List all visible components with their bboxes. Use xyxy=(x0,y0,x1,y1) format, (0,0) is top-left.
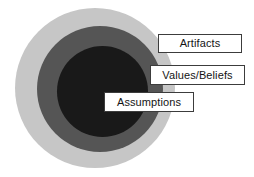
label-box-values-beliefs: Values/Beliefs xyxy=(150,65,245,85)
label-text-values-beliefs: Values/Beliefs xyxy=(162,70,232,81)
label-box-assumptions: Assumptions xyxy=(104,92,194,112)
label-box-artifacts: Artifacts xyxy=(158,34,242,53)
label-text-artifacts: Artifacts xyxy=(180,38,221,49)
diagram-canvas: Artifacts Values/Beliefs Assumptions xyxy=(0,0,254,177)
label-text-assumptions: Assumptions xyxy=(117,97,181,108)
